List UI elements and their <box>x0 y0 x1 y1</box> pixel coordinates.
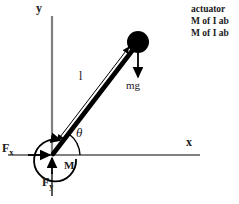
weight-force-label: mg <box>126 80 140 91</box>
side-note-line-2: M of I ab <box>191 15 239 27</box>
length-dimension-arrow <box>57 47 129 141</box>
pendulum-diagram-canvas: y x l mg θ M Fx Fy actuator M of I ab M … <box>0 0 239 204</box>
theta-angle-label: θ <box>76 126 82 139</box>
fx-force-label: Fx <box>2 142 14 156</box>
side-notes-text: actuator M of I ab M of I ab <box>191 3 239 39</box>
pendulum-bob <box>127 31 149 53</box>
fy-subscript: y <box>49 181 53 191</box>
side-note-line-3: M of I ab <box>191 27 239 39</box>
side-note-line-1: actuator <box>191 3 239 15</box>
rod-length-label: l <box>79 70 82 82</box>
fy-force-label: Fy <box>42 176 54 190</box>
moment-label: M <box>64 160 74 171</box>
pendulum-rod <box>53 47 135 154</box>
fx-subscript: x <box>9 147 13 157</box>
x-axis-label: x <box>186 136 192 148</box>
y-axis-label: y <box>36 2 42 14</box>
